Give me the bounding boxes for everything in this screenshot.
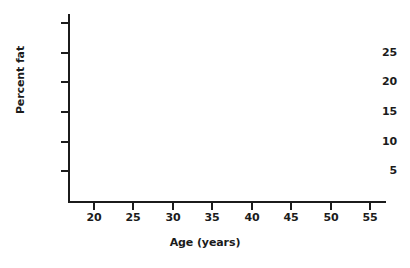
y-tick-mark bbox=[61, 111, 69, 113]
y-tick-mark bbox=[61, 141, 69, 143]
y-axis-title-container: Percent fat bbox=[9, 0, 25, 160]
y-tick-label: 10 bbox=[356, 136, 410, 147]
y-tick-mark bbox=[61, 52, 69, 54]
x-tick-mark bbox=[93, 203, 95, 210]
x-tick-mark bbox=[369, 203, 371, 210]
x-tick-label: 50 bbox=[311, 212, 351, 224]
y-tick-mark bbox=[61, 81, 69, 83]
y-tick-mark bbox=[61, 170, 69, 172]
x-tick-label: 35 bbox=[192, 212, 232, 224]
y-tick-mark bbox=[61, 22, 69, 24]
y-tick-label: 15 bbox=[356, 106, 410, 117]
y-tick-label: 25 bbox=[356, 47, 410, 58]
x-tick-mark bbox=[290, 203, 292, 210]
y-tick-label: 20 bbox=[356, 76, 410, 87]
x-tick-label: 30 bbox=[153, 212, 193, 224]
y-axis-line bbox=[68, 14, 70, 203]
x-tick-label: 20 bbox=[74, 212, 114, 224]
y-tick-label: 5 bbox=[356, 165, 410, 176]
x-axis-title: Age (years) bbox=[0, 236, 410, 249]
x-tick-mark bbox=[132, 203, 134, 210]
x-tick-label: 55 bbox=[350, 212, 390, 224]
x-tick-label: 25 bbox=[113, 212, 153, 224]
x-tick-mark bbox=[251, 203, 253, 210]
x-tick-label: 40 bbox=[232, 212, 272, 224]
x-tick-mark bbox=[211, 203, 213, 210]
chart-figure: 510152025 2025303540455055 Percent fat A… bbox=[0, 0, 410, 268]
x-tick-mark bbox=[172, 203, 174, 210]
x-tick-label: 45 bbox=[271, 212, 311, 224]
y-axis-title: Percent fat bbox=[14, 46, 27, 114]
x-tick-mark bbox=[330, 203, 332, 210]
x-axis-line bbox=[68, 201, 386, 203]
plot-area bbox=[70, 14, 386, 201]
